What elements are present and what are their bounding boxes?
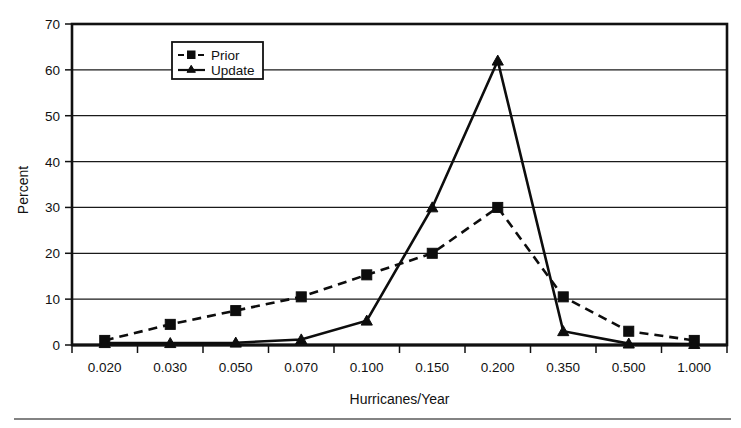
x-tick-label-0.500: 0.500 [612, 360, 646, 375]
x-tick-label-0.100: 0.100 [350, 360, 384, 375]
legend-label-prior: Prior [211, 48, 240, 63]
hurricane-frequency-line-chart: 010203040506070 0.0200.0300.0500.0700.10… [0, 0, 741, 428]
y-tick-label-10: 10 [45, 292, 60, 307]
data-point-prior-0.200 [493, 202, 503, 212]
y-tick-label-0: 0 [52, 338, 60, 353]
legend-label-update: Update [211, 63, 255, 78]
data-point-prior-0.350 [558, 292, 568, 302]
y-tick-label-30: 30 [45, 200, 60, 215]
data-point-prior-0.100 [362, 270, 372, 280]
y-tick-label-70: 70 [45, 17, 60, 32]
x-tick-label-0.350: 0.350 [546, 360, 580, 375]
x-tick-label-0.200: 0.200 [481, 360, 515, 375]
x-axis-title: Hurricanes/Year [350, 391, 450, 407]
x-tick-label-0.070: 0.070 [284, 360, 318, 375]
data-point-prior-0.070 [296, 292, 306, 302]
chart-figure: 010203040506070 0.0200.0300.0500.0700.10… [0, 0, 741, 428]
x-tick-label-0.150: 0.150 [415, 360, 449, 375]
y-tick-label-20: 20 [45, 246, 60, 261]
x-tick-label-0.030: 0.030 [153, 360, 187, 375]
y-tick-label-40: 40 [45, 155, 60, 170]
data-point-prior-0.150 [427, 248, 437, 258]
y-axis-title: Percent [15, 166, 31, 214]
legend-marker-square-prior [188, 51, 196, 59]
x-tick-label-0.050: 0.050 [219, 360, 253, 375]
y-tick-label-60: 60 [45, 63, 60, 78]
data-point-prior-0.030 [165, 319, 175, 329]
chart-legend: Prior Update [172, 42, 263, 79]
data-point-prior-0.500 [624, 326, 634, 336]
data-point-prior-0.050 [231, 306, 241, 316]
y-tick-label-50: 50 [45, 109, 60, 124]
x-tick-label-1.000: 1.000 [677, 360, 711, 375]
x-tick-label-0.020: 0.020 [88, 360, 122, 375]
